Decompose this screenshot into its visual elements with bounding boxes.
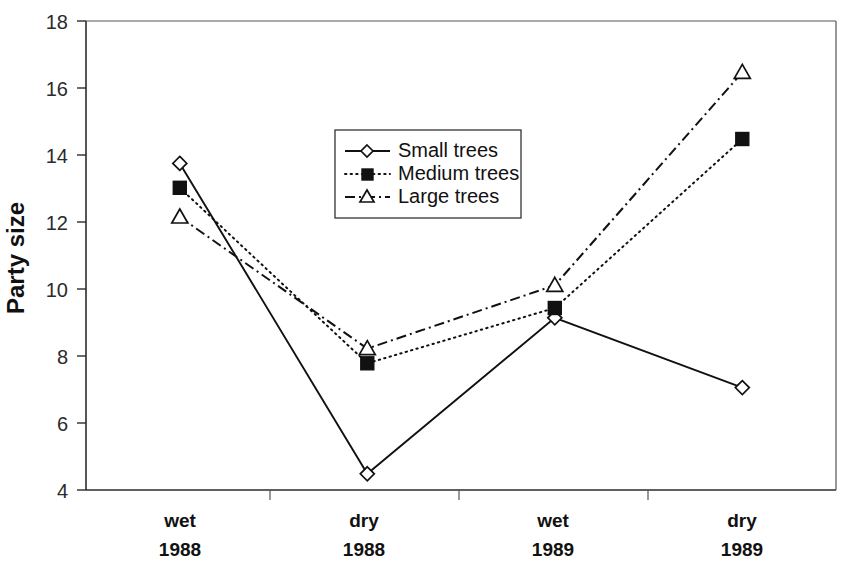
x-label-2-year: 1989 bbox=[532, 539, 574, 560]
chart-figure: 18 16 14 12 10 8 6 4 Party size wet 1988… bbox=[0, 0, 843, 569]
filled-square-marker bbox=[736, 133, 749, 146]
filled-square-marker bbox=[361, 357, 374, 370]
filled-square-marker bbox=[548, 302, 561, 315]
filled-square-marker bbox=[173, 181, 186, 194]
y-tick-label-10: 10 bbox=[46, 279, 68, 301]
y-tick-label-12: 12 bbox=[46, 212, 68, 234]
y-axis-ticks: 18 16 14 12 10 8 6 4 bbox=[46, 11, 86, 502]
x-label-0-year: 1988 bbox=[159, 539, 201, 560]
open-triangle-marker bbox=[734, 64, 750, 78]
y-tick-label-4: 4 bbox=[57, 480, 68, 502]
y-axis-title: Party size bbox=[2, 202, 29, 314]
plot-frame bbox=[86, 21, 836, 490]
open-triangle-marker bbox=[172, 209, 188, 223]
open-diamond-marker bbox=[173, 156, 187, 170]
y-tick-label-8: 8 bbox=[57, 346, 68, 368]
data-series-layer bbox=[172, 64, 751, 480]
open-diamond-marker bbox=[735, 381, 749, 395]
y-tick-label-16: 16 bbox=[46, 78, 68, 100]
legend-label-medium-trees: Medium trees bbox=[398, 162, 519, 184]
line-chart: 18 16 14 12 10 8 6 4 Party size wet 1988… bbox=[0, 0, 843, 569]
y-tick-label-6: 6 bbox=[57, 413, 68, 435]
legend: Small trees Medium trees Large trees bbox=[335, 130, 521, 218]
x-axis-labels: wet 1988 dry 1988 wet 1989 dry 1989 bbox=[159, 510, 763, 560]
x-label-1-year: 1988 bbox=[343, 539, 385, 560]
x-label-3-season: dry bbox=[727, 510, 757, 531]
x-label-2-season: wet bbox=[536, 510, 569, 531]
legend-label-small-trees: Small trees bbox=[398, 139, 498, 161]
y-tick-label-18: 18 bbox=[46, 11, 68, 33]
y-tick-label-14: 14 bbox=[46, 145, 68, 167]
x-label-1-season: dry bbox=[349, 510, 379, 531]
x-axis-ticks bbox=[270, 490, 648, 500]
x-label-3-year: 1989 bbox=[721, 539, 763, 560]
legend-label-large-trees: Large trees bbox=[398, 185, 499, 207]
filled-square-icon bbox=[362, 169, 373, 180]
x-label-0-season: wet bbox=[163, 510, 196, 531]
